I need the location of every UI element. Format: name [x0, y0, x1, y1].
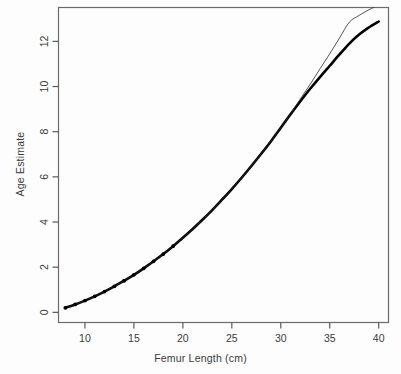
data-point	[73, 303, 77, 307]
data-point	[142, 266, 146, 270]
data-point	[63, 306, 67, 310]
data-point	[83, 299, 87, 303]
x-axis-ticks: 10152025303540	[79, 323, 385, 344]
data-point	[171, 244, 175, 248]
data-point	[93, 294, 97, 298]
data-point	[103, 290, 107, 294]
x-tick-label: 20	[177, 332, 189, 344]
data-point	[152, 259, 156, 263]
y-tick-label: 8	[39, 129, 51, 135]
data-point	[122, 279, 126, 283]
chart-plot-area: 10152025303540 024681012	[0, 0, 401, 374]
data-point-markers	[63, 244, 175, 309]
x-tick-label: 35	[324, 332, 336, 344]
chart-figure: 10152025303540 024681012 Femur Length (c…	[0, 0, 401, 374]
curve-fitted-curve-thick	[65, 22, 378, 308]
y-axis-title: Age Estimate	[14, 104, 26, 224]
x-axis-title: Femur Length (cm)	[0, 352, 401, 364]
data-point	[112, 284, 116, 288]
x-tick-label: 30	[275, 332, 287, 344]
x-tick-label: 10	[79, 332, 91, 344]
curve-reference-curve-thin	[65, 5, 378, 308]
y-tick-label: 2	[39, 264, 51, 270]
x-tick-label: 40	[373, 332, 385, 344]
y-tick-label: 12	[39, 35, 51, 47]
y-tick-label: 0	[39, 309, 51, 315]
x-tick-label: 25	[226, 332, 238, 344]
y-tick-label: 10	[39, 81, 51, 93]
y-axis-ticks: 024681012	[39, 35, 59, 315]
x-tick-label: 15	[128, 332, 140, 344]
data-point	[132, 273, 136, 277]
y-tick-label: 4	[39, 219, 51, 225]
y-tick-label: 6	[39, 174, 51, 180]
data-curves	[65, 5, 378, 308]
data-point	[161, 252, 165, 256]
